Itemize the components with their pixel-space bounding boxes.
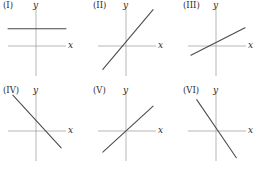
data-line — [13, 95, 61, 148]
y-axis-label: y — [33, 1, 38, 10]
panel-label-vi: (VI) — [183, 86, 199, 95]
panel-label-i: (I) — [3, 1, 13, 10]
panel-ii-plot — [90, 0, 180, 84]
x-axis-label: x — [158, 41, 163, 50]
y-axis-label: y — [33, 86, 38, 95]
x-axis-label: x — [158, 126, 163, 135]
panel-label-ii: (II) — [93, 1, 106, 10]
panel-label-iv: (IV) — [3, 86, 19, 95]
panel-i: (I) y x — [0, 0, 90, 84]
panel-iii-plot — [180, 0, 270, 84]
panel-vi: (VI) y x — [180, 85, 270, 169]
y-axis-label: y — [123, 1, 128, 10]
panel-i-plot — [0, 0, 90, 84]
panel-iv: (IV) y x — [0, 85, 90, 169]
panel-vi-plot — [180, 85, 270, 169]
panel-ii: (II) y x — [90, 0, 180, 84]
data-line — [191, 28, 245, 55]
y-axis-label: y — [213, 86, 218, 95]
x-axis-label: x — [68, 41, 73, 50]
x-axis-label: x — [248, 126, 253, 135]
panel-v-plot — [90, 85, 180, 169]
data-line — [103, 106, 153, 152]
data-line — [103, 10, 153, 70]
panel-label-v: (V) — [93, 86, 106, 95]
line-graph-figure: (I) y x (II) y x (III) y x (IV) y — [0, 0, 270, 169]
data-line — [197, 100, 237, 158]
x-axis-label: x — [68, 126, 73, 135]
panel-iii: (III) y x — [180, 0, 270, 84]
panel-v: (V) y x — [90, 85, 180, 169]
x-axis-label: x — [248, 41, 253, 50]
panel-iv-plot — [0, 85, 90, 169]
y-axis-label: y — [213, 1, 218, 10]
y-axis-label: y — [123, 86, 128, 95]
panel-label-iii: (III) — [183, 1, 200, 10]
